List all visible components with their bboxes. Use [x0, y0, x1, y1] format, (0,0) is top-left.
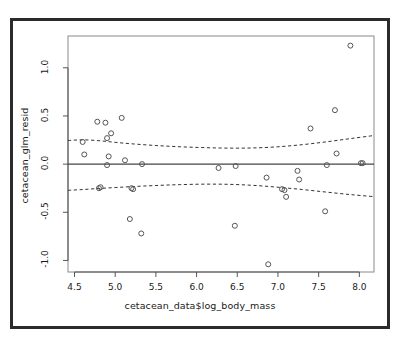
data-point — [122, 158, 127, 163]
x-tick-label-2: 5.5 — [141, 282, 171, 292]
x-axis-group — [75, 272, 360, 277]
y-tick-label-0: -1.0 — [40, 244, 50, 274]
data-point — [308, 126, 313, 131]
lower-band — [68, 184, 374, 197]
data-point — [284, 194, 289, 199]
data-point — [95, 119, 100, 124]
scatter-plot-canvas — [0, 0, 400, 347]
data-point — [323, 209, 328, 214]
data-point — [103, 120, 108, 125]
data-point — [119, 115, 124, 120]
y-axis-group — [63, 68, 68, 261]
data-point — [139, 231, 144, 236]
y-axis-title: cetacean_glm_resid — [19, 66, 30, 246]
data-point — [131, 187, 136, 192]
data-point — [82, 152, 87, 157]
y-tick-label-4: 1.0 — [40, 52, 50, 82]
plot-box-group — [68, 36, 374, 272]
data-point — [297, 177, 302, 182]
data-point — [105, 136, 110, 141]
data-point — [264, 175, 269, 180]
data-point — [348, 43, 353, 48]
data-point — [295, 168, 300, 173]
x-tick-label-6: 7.5 — [304, 282, 334, 292]
data-point — [127, 217, 132, 222]
data-points-group — [80, 43, 365, 267]
data-point — [106, 154, 111, 159]
data-point — [98, 185, 103, 190]
confidence-band-lines — [68, 136, 374, 197]
y-tick-label-1: -0.5 — [40, 196, 50, 226]
data-point — [324, 163, 329, 168]
plot-box — [68, 36, 374, 272]
y-tick-label-2: 0.0 — [40, 148, 50, 178]
x-tick-label-0: 4.5 — [60, 282, 90, 292]
x-axis-title: cetacean_data$log_body_mass — [0, 300, 400, 311]
y-tick-label-3: 0.5 — [40, 100, 50, 130]
data-point — [334, 151, 339, 156]
data-point — [232, 223, 237, 228]
x-tick-label-4: 6.5 — [222, 282, 252, 292]
data-point — [266, 262, 271, 267]
screenshot-root: cetacean_data$log_body_mass cetacean_glm… — [0, 0, 400, 347]
data-point — [332, 108, 337, 113]
x-tick-label-1: 5.0 — [100, 282, 130, 292]
x-tick-label-7: 8.0 — [344, 282, 374, 292]
x-tick-label-3: 6.0 — [182, 282, 212, 292]
data-point — [216, 165, 221, 170]
x-tick-label-5: 7.0 — [263, 282, 293, 292]
upper-band — [68, 136, 374, 149]
data-point — [109, 131, 114, 136]
data-point — [105, 163, 110, 168]
